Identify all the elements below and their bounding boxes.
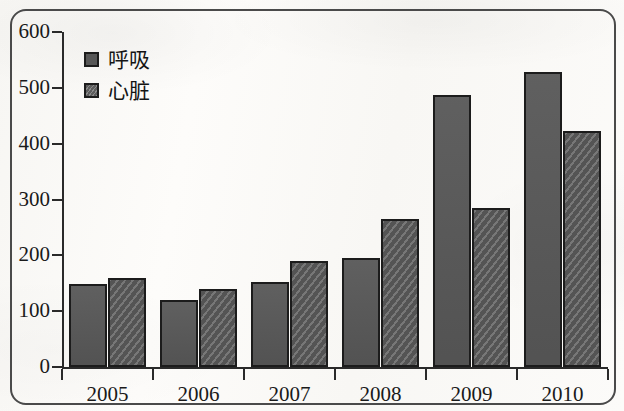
- y-axis-tick: [52, 87, 62, 89]
- bar-2005-heart: [108, 278, 146, 367]
- legend-item-0: 呼吸: [84, 44, 214, 75]
- bar-2006-respiratory: [160, 300, 198, 367]
- legend-swatch-heart-icon: [84, 83, 99, 98]
- bar-2009-respiratory: [433, 95, 471, 367]
- y-axis-tick: [52, 310, 62, 312]
- y-axis-tick-label-wrap: 0: [0, 356, 50, 377]
- legend-item-1: 心脏: [84, 75, 214, 106]
- y-axis-tick-label-wrap: 600: [0, 21, 50, 42]
- y-axis-tick-label: 500: [4, 77, 50, 98]
- x-axis-tick: [243, 369, 245, 380]
- y-axis-tick: [52, 366, 62, 368]
- y-axis-line: [62, 32, 64, 369]
- bar-2010-respiratory: [524, 72, 562, 367]
- x-axis-tick-label: 2008: [336, 382, 426, 406]
- y-axis-tick: [52, 254, 62, 256]
- x-axis-tick: [61, 369, 63, 380]
- legend-swatch-respiratory-icon: [84, 52, 99, 67]
- y-axis-tick-label: 600: [4, 21, 50, 42]
- x-axis-tick: [334, 369, 336, 380]
- bar-2008-respiratory: [342, 258, 380, 367]
- legend-label-heart: 心脏: [108, 80, 150, 102]
- x-axis-tick-label: 2007: [245, 382, 335, 406]
- y-axis-tick-label-wrap: 100: [0, 300, 50, 321]
- y-axis-tick: [52, 143, 62, 145]
- y-axis-tick-label: 200: [4, 244, 50, 265]
- y-axis-tick: [52, 199, 62, 201]
- bar-2008-heart: [381, 219, 419, 367]
- x-axis-tick: [516, 369, 518, 380]
- legend-label-respiratory: 呼吸: [108, 49, 150, 71]
- y-axis-tick-label-wrap: 200: [0, 244, 50, 265]
- x-axis-tick: [425, 369, 427, 380]
- x-axis-tick: [152, 369, 154, 380]
- chart-legend: 呼吸 心脏: [84, 44, 214, 106]
- y-axis-tick-label: 300: [4, 189, 50, 210]
- x-axis-tick-label: 2005: [63, 382, 153, 406]
- bar-2007-heart: [290, 261, 328, 367]
- x-axis-tick-label: 2009: [427, 382, 517, 406]
- bar-2007-respiratory: [251, 282, 289, 367]
- bar-2005-respiratory: [69, 284, 107, 367]
- bar-2006-heart: [199, 289, 237, 367]
- x-axis-tick-label: 2010: [518, 382, 608, 406]
- y-axis-tick-label-wrap: 500: [0, 77, 50, 98]
- bar-2009-heart: [472, 208, 510, 367]
- bar-2010-heart: [563, 131, 601, 367]
- y-axis-tick-label: 0: [4, 356, 50, 377]
- x-axis-tick: [607, 369, 609, 380]
- y-axis-tick-label-wrap: 300: [0, 189, 50, 210]
- y-axis-tick-label-wrap: 400: [0, 133, 50, 154]
- y-axis-tick-label: 100: [4, 300, 50, 321]
- x-axis-tick-label: 2006: [154, 382, 244, 406]
- y-axis-tick-label: 400: [4, 133, 50, 154]
- y-axis-tick: [52, 31, 62, 33]
- bar-chart-figure: 0100200300400500600 20052006200720082009…: [0, 0, 624, 411]
